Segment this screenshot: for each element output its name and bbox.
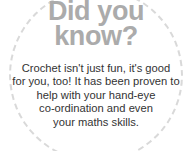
body-line: your maths skills. [12, 116, 180, 129]
body-line: co-ordination and even [12, 102, 180, 115]
body-line: Crochet isn't just fun, it's good [12, 62, 180, 75]
card-title: Did you know? [0, 0, 192, 49]
body-line: for you, too! It has been proven to [12, 75, 180, 88]
card-content: Did you know? Crochet isn't just fun, it… [0, 0, 192, 151]
did-you-know-card: Did you know? Crochet isn't just fun, it… [0, 0, 192, 151]
body-line: help with your hand-eye [12, 89, 180, 102]
card-body-text: Crochet isn't just fun, it's good for yo… [12, 62, 180, 129]
